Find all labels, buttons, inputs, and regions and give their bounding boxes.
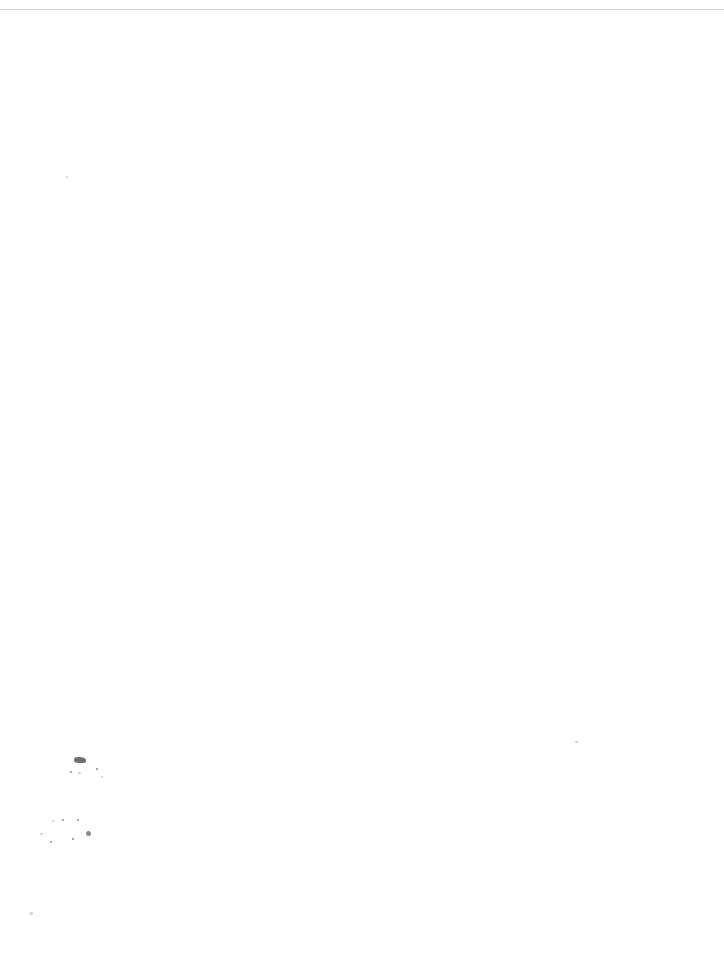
ink-blot — [74, 757, 86, 763]
speck — [40, 833, 43, 835]
speck — [72, 838, 74, 840]
page-top-edge-line — [0, 9, 724, 10]
speck — [70, 771, 72, 773]
speck — [77, 819, 79, 821]
speck — [50, 841, 52, 843]
blank-scanned-page — [0, 0, 724, 969]
speck — [101, 776, 103, 778]
speck — [86, 831, 91, 836]
speck — [52, 820, 54, 822]
speck — [62, 819, 64, 821]
speck — [575, 741, 578, 743]
speck — [78, 772, 81, 774]
speck — [30, 912, 33, 915]
speck — [96, 768, 98, 770]
speck — [66, 176, 68, 178]
